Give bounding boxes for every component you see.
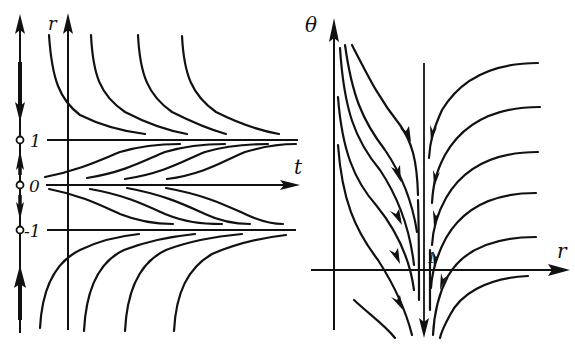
curves-above-one xyxy=(49,35,279,134)
solution-curve xyxy=(40,234,139,328)
trajectory xyxy=(338,97,414,290)
r-axis-right-label: r xyxy=(557,239,568,263)
trajectory xyxy=(345,45,417,232)
trajectory xyxy=(354,300,395,338)
label-minus-one: -1 xyxy=(24,221,41,241)
solution-curve xyxy=(49,35,145,134)
curves-below-minus-one xyxy=(40,234,286,331)
curves-zero-to-minus-one xyxy=(49,188,283,224)
theta-axis-label: θ xyxy=(305,13,317,37)
equilibrium-point-0 xyxy=(17,182,24,189)
label-one: 1 xyxy=(30,131,41,151)
equilibrium-point-minus-1 xyxy=(17,227,24,234)
equilibrium-point-1 xyxy=(17,137,24,144)
arrow-down-icon xyxy=(391,295,403,310)
t-axis-label: t xyxy=(294,155,303,179)
right-panel: θ r 1 xyxy=(305,13,570,338)
trajectory xyxy=(418,200,419,300)
solution-curve xyxy=(84,234,195,331)
solution-curve xyxy=(166,188,283,224)
solution-curve xyxy=(174,235,286,331)
solution-curve xyxy=(182,36,279,134)
curves-zero-to-one xyxy=(45,144,296,179)
left-trajectories xyxy=(338,45,418,338)
left-panel: 1 0 -1 r t xyxy=(14,13,303,333)
right-trajectories xyxy=(429,63,540,338)
trajectory xyxy=(432,152,538,245)
solution-curve xyxy=(167,144,296,179)
trajectory xyxy=(429,63,538,158)
diagram-canvas: 1 0 -1 r t xyxy=(0,0,575,344)
trajectory xyxy=(352,45,418,195)
phase-line xyxy=(14,14,26,333)
trajectory xyxy=(440,276,528,338)
phase-diagram-figure: 1 0 -1 r t xyxy=(0,0,575,344)
solution-curve xyxy=(125,144,268,179)
trajectory xyxy=(432,107,540,203)
trajectory xyxy=(431,193,536,288)
r-axis-label: r xyxy=(48,13,58,34)
label-zero: 0 xyxy=(29,176,40,196)
arrow-down-icon xyxy=(389,248,400,264)
